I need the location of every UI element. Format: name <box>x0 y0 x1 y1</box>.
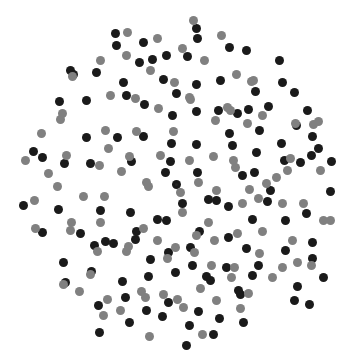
scatter-point <box>122 247 131 256</box>
scatter-point <box>38 153 47 162</box>
scatter-point <box>193 168 202 177</box>
scatter-point <box>299 199 308 208</box>
scatter-point <box>194 307 203 316</box>
scatter-point <box>164 298 173 307</box>
scatter-point <box>242 46 251 55</box>
scatter-point <box>82 96 91 105</box>
scatter-point <box>101 237 110 246</box>
scatter-point <box>292 121 301 130</box>
scatter-point <box>251 87 260 96</box>
scatter-point <box>21 156 30 165</box>
scatter-point <box>54 205 63 214</box>
scatter-point <box>176 188 185 197</box>
scatter-point <box>172 180 181 189</box>
scatter-point <box>262 179 271 188</box>
scatter-point <box>168 111 177 120</box>
scatter-point <box>188 261 197 270</box>
scatter-point <box>135 58 144 67</box>
scatter-point <box>195 227 204 236</box>
scatter-point <box>172 89 181 98</box>
scatter-point <box>29 147 38 156</box>
scatter-point <box>164 248 173 257</box>
scatter-point <box>126 208 135 217</box>
scatter-point <box>140 100 149 109</box>
scatter-point <box>125 318 134 327</box>
scatter-point <box>204 218 213 227</box>
scatter-point <box>307 151 316 160</box>
scatter-point <box>212 296 221 305</box>
scatter-point <box>236 290 245 299</box>
scatter-point <box>319 273 328 282</box>
scatter-point <box>118 277 127 286</box>
scatter-point <box>132 127 141 136</box>
scatter-point <box>212 186 221 195</box>
scatter-point <box>170 78 179 87</box>
scatter-point <box>113 133 122 142</box>
scatter-point <box>185 156 194 165</box>
scatter-point <box>231 163 240 172</box>
scatter-point <box>192 140 201 149</box>
scatter-point <box>217 31 226 40</box>
scatter-point <box>144 272 153 281</box>
scatter-point <box>185 93 194 102</box>
scatter-point <box>178 199 187 208</box>
scatter-point <box>307 261 316 270</box>
scatter-point <box>59 258 68 267</box>
scatter-point <box>211 116 220 125</box>
scatter-point <box>99 311 108 320</box>
scatter-point <box>119 78 128 87</box>
scatter-point <box>326 216 335 225</box>
scatter-point <box>296 158 305 167</box>
scatter-point <box>60 159 69 168</box>
scatter-point <box>244 105 253 114</box>
scatter-point <box>94 301 103 310</box>
scatter-point <box>96 206 105 215</box>
scatter-point <box>66 66 75 75</box>
scatter-point <box>230 263 239 272</box>
scatter-point <box>327 157 336 166</box>
scatter-point <box>272 173 281 182</box>
scatter-point <box>192 107 201 116</box>
scatter-point <box>192 231 201 240</box>
scatter-point <box>255 249 264 258</box>
scatter-point <box>200 56 209 65</box>
scatter-point <box>238 199 247 208</box>
scatter-point <box>247 77 256 86</box>
scatter-point <box>280 156 289 165</box>
scatter-point <box>194 178 203 187</box>
scatter-point <box>283 166 292 175</box>
scatter-point <box>112 41 121 50</box>
scatter-point <box>123 28 132 37</box>
scatter-point <box>308 254 317 263</box>
scatter-point <box>141 293 150 302</box>
scatter-point <box>290 88 299 97</box>
scatter-point <box>216 76 225 85</box>
scatter-point <box>226 106 235 115</box>
scatter-point <box>61 278 70 287</box>
scatter-point <box>255 126 264 135</box>
scatter-point <box>153 215 162 224</box>
scatter-point <box>37 129 46 138</box>
scatter-point <box>192 80 201 89</box>
scatter-point <box>156 151 165 160</box>
scatter-point <box>305 300 314 309</box>
scatter-point <box>263 197 272 206</box>
scatter-point <box>131 94 140 103</box>
scatter-point <box>132 227 141 236</box>
scatter-point <box>169 127 178 136</box>
scatter-point <box>244 289 253 298</box>
scatter-point <box>69 70 78 79</box>
scatter-point <box>139 38 148 47</box>
scatter-point <box>290 296 299 305</box>
scatter-point <box>148 55 157 64</box>
scatter-point <box>101 126 110 135</box>
scatter-point <box>86 270 95 279</box>
scatter-point <box>314 117 323 126</box>
scatter-point <box>258 111 267 120</box>
scatter-point <box>224 233 233 242</box>
scatter-point <box>308 132 317 141</box>
scatter-point <box>144 182 153 191</box>
scatter-point <box>204 195 213 204</box>
scatter-point <box>291 119 300 128</box>
scatter-point <box>106 91 115 100</box>
